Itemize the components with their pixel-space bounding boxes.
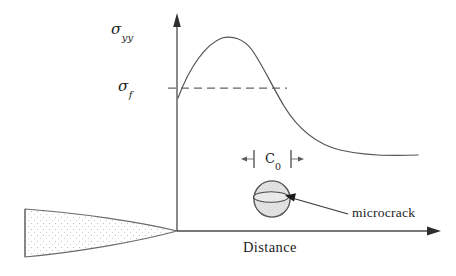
y-axis-group (173, 13, 181, 231)
threshold-label-symbol: σ (118, 77, 128, 95)
grain-group (252, 179, 292, 219)
x-axis-arrowhead (427, 227, 441, 236)
diagram-canvas (0, 0, 456, 276)
y-axis-label-symbol: σ (111, 20, 121, 38)
threshold-label: σf (118, 79, 132, 97)
c0-right-arrowhead (298, 157, 304, 162)
c0-label: C0 (265, 152, 281, 168)
microcrack-lens (254, 192, 289, 202)
crack-tip-stress-diagram: σyy σf C0 microcrack Distance (0, 0, 456, 276)
c0-left-arrowhead (241, 157, 247, 162)
y-axis-label: σyy (111, 22, 133, 40)
threshold-label-subscript: f (129, 89, 133, 100)
stress-distribution-curve (178, 37, 418, 155)
c0-label-symbol: C (265, 151, 275, 166)
x-axis-label: Distance (243, 240, 297, 255)
microcrack-leader-line (292, 198, 348, 214)
microcrack-label: microcrack (352, 206, 415, 220)
y-axis-label-subscript: yy (122, 32, 133, 43)
x-axis-group (177, 227, 441, 236)
y-axis-arrowhead (173, 13, 181, 27)
microcrack-callout-group (285, 193, 348, 214)
crack-profile-group (20, 204, 185, 264)
c0-label-subscript: 0 (275, 161, 281, 172)
